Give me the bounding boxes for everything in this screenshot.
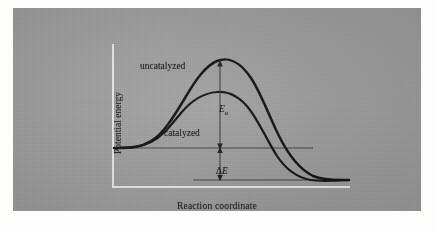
delta-energy-variable: E (222, 166, 228, 176)
delta-energy-label: ΔE (216, 166, 228, 176)
y-axis-label-wrapper: Potential energy (111, 63, 125, 183)
catalyzed-curve (114, 92, 349, 181)
activation-energy-label: Ea (219, 104, 228, 116)
energy-diagram-plot (13, 8, 421, 211)
figure-page: uncatalyzed catalyzed Ea ΔE Reaction coo… (0, 0, 437, 232)
scanned-figure-panel: uncatalyzed catalyzed Ea ΔE Reaction coo… (13, 8, 421, 211)
diagram-svg (13, 8, 421, 211)
catalyzed-curve-label: catalyzed (164, 128, 200, 138)
uncatalyzed-curve-label: uncatalyzed (140, 61, 185, 71)
y-axis-label: Potential energy (113, 92, 123, 154)
x-axis-label: Reaction coordinate (13, 201, 421, 211)
uncatalyzed-curve (114, 59, 349, 180)
activation-energy-subscript: a (225, 109, 228, 116)
